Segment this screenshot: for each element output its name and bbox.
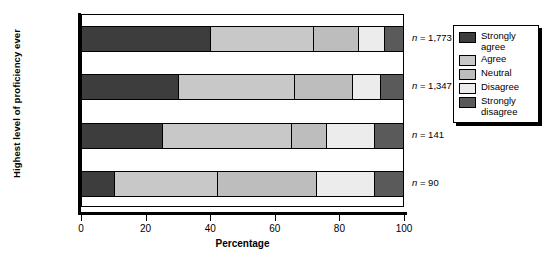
- legend-swatch: [459, 97, 476, 108]
- bar-segment: [82, 124, 162, 148]
- x-axis-title: Percentage: [81, 238, 404, 249]
- bar-segment: [82, 27, 210, 51]
- legend-item: Strongly agree: [459, 31, 534, 52]
- legend-item: Agree: [459, 54, 534, 66]
- bar-segment: [380, 75, 402, 99]
- legend-label: Strongly agree: [481, 31, 534, 52]
- bar-segment: [82, 172, 114, 196]
- bar-moderate: [82, 74, 403, 100]
- bar-segment: [291, 124, 326, 148]
- bar-segment: [326, 124, 374, 148]
- x-axis-tick-label: 40: [190, 223, 230, 234]
- legend-swatch: [459, 55, 476, 66]
- x-axis-tick-label: 80: [319, 223, 359, 234]
- legend-item: Strongly disagree: [459, 96, 534, 117]
- legend-swatch: [459, 32, 476, 43]
- x-axis-tick: [339, 215, 340, 221]
- legend-swatch: [459, 83, 476, 94]
- bar-segment: [374, 124, 403, 148]
- bar-segment: [114, 172, 217, 196]
- x-axis-tick: [404, 215, 405, 221]
- sample-size-label: n = 1,773: [412, 32, 452, 43]
- x-axis-tick: [81, 215, 82, 221]
- x-axis-spine: [78, 212, 407, 215]
- bar-segment: [294, 75, 352, 99]
- legend-label: Neutral: [481, 68, 512, 79]
- bar-segment: [217, 172, 317, 196]
- bar-segment: [374, 172, 403, 196]
- bar-segment: [162, 124, 290, 148]
- sample-size-label: n = 1,347: [412, 80, 452, 91]
- chart-figure: Highest level of proficiency ever HighMo…: [0, 0, 546, 259]
- x-axis-tick-label: 60: [255, 223, 295, 234]
- bar-segment: [178, 75, 294, 99]
- bar-segment: [210, 27, 313, 51]
- legend-label: Strongly disagree: [481, 96, 534, 117]
- legend-item: Neutral: [459, 68, 534, 80]
- legend-label: Disagree: [481, 82, 519, 93]
- bar-minimal: [82, 123, 403, 149]
- plot-area: [81, 14, 404, 207]
- sample-size-label: n = 90: [412, 177, 439, 188]
- bar-segment: [352, 75, 381, 99]
- x-axis-tick-label: 0: [61, 223, 101, 234]
- x-axis-tick-label: 100: [384, 223, 424, 234]
- x-axis-tick: [210, 215, 211, 221]
- legend-label: Agree: [481, 54, 506, 65]
- bar-high: [82, 26, 403, 52]
- bar-segment: [358, 27, 384, 51]
- bar-none: [82, 171, 403, 197]
- legend-item: Disagree: [459, 82, 534, 94]
- sample-size-label: n = 141: [412, 129, 444, 140]
- bar-segment: [316, 172, 374, 196]
- bar-segment: [384, 27, 403, 51]
- legend: Strongly agreeAgreeNeutralDisagreeStrong…: [453, 25, 539, 123]
- x-axis-tick-label: 20: [126, 223, 166, 234]
- legend-swatch: [459, 69, 476, 80]
- bar-segment: [313, 27, 358, 51]
- y-axis-title: Highest level of proficiency ever: [11, 4, 22, 204]
- x-axis-tick: [275, 215, 276, 221]
- x-axis-tick: [146, 215, 147, 221]
- bar-segment: [82, 75, 178, 99]
